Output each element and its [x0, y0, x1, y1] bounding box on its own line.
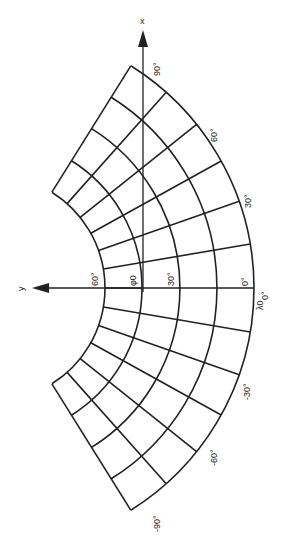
x-axis-label: x	[140, 16, 145, 26]
lat-label-60: 60°	[90, 272, 100, 286]
x-axis-arrow-icon	[138, 30, 148, 47]
lat-label-0: 0°	[240, 277, 250, 286]
lon-label-neg30: -30°	[242, 383, 252, 400]
x-axis: x	[138, 16, 148, 292]
meridian-line	[80, 359, 196, 452]
y-axis-label: y	[16, 286, 26, 291]
lon-label-90: 90°	[152, 62, 162, 76]
lat-label-30: 30°	[166, 272, 176, 286]
y-axis-arrow-icon	[32, 283, 49, 293]
lon-label-60: 60°	[209, 128, 219, 142]
meridian-line	[103, 244, 250, 269]
lon-label-0: 0°	[260, 291, 270, 300]
graticule-canvas: x y 90° 60° 30° 0° -30° -60° -90° 60° φ0…	[0, 0, 299, 542]
y-axis: y	[16, 283, 143, 293]
meridian-line	[103, 307, 250, 332]
meridian-line	[52, 384, 131, 510]
meridian-line	[52, 66, 131, 192]
projection-diagram: x y 90° 60° 30° 0° -30° -60° -90° 60° φ0…	[0, 0, 299, 542]
meridian-line	[80, 124, 196, 217]
lon-label-30: 30°	[243, 194, 253, 208]
lat-label-phi0: φ0	[128, 275, 138, 286]
lon-label-neg60: -60°	[209, 449, 219, 466]
lambda0-label: λ0	[255, 300, 265, 310]
lon-label-neg90: -90°	[152, 515, 162, 532]
